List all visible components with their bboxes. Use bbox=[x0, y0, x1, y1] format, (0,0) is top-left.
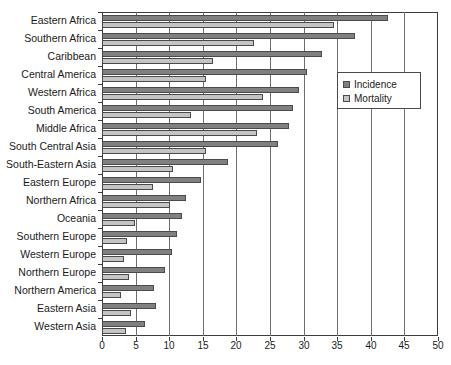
category-label: Central America bbox=[0, 68, 96, 80]
bar-incidence bbox=[102, 159, 228, 165]
bar-mortality bbox=[102, 256, 124, 262]
bar-incidence bbox=[102, 285, 154, 291]
bar-mortality bbox=[102, 184, 153, 190]
y-tick-mark bbox=[98, 318, 102, 319]
x-tick-label: 25 bbox=[255, 340, 285, 352]
bar-incidence bbox=[102, 177, 201, 183]
x-tick-label: 20 bbox=[221, 340, 251, 352]
bar-mortality bbox=[102, 112, 191, 118]
gridline bbox=[337, 12, 338, 336]
y-tick-mark bbox=[98, 192, 102, 193]
y-tick-mark bbox=[98, 30, 102, 31]
legend-swatch-incidence bbox=[343, 81, 350, 88]
gridline bbox=[304, 12, 305, 336]
bar-mortality bbox=[102, 166, 173, 172]
gridline bbox=[270, 12, 271, 336]
bar-incidence bbox=[102, 249, 172, 255]
y-tick-mark bbox=[98, 228, 102, 229]
legend-label-mortality: Mortality bbox=[354, 93, 392, 104]
chart-legend: Incidence Mortality bbox=[337, 72, 421, 109]
bar-incidence bbox=[102, 51, 322, 57]
category-label: Western Asia bbox=[0, 320, 96, 332]
x-tick-label: 5 bbox=[121, 340, 151, 352]
category-label: Western Europe bbox=[0, 248, 96, 260]
bar-incidence bbox=[102, 123, 289, 129]
y-tick-mark bbox=[98, 246, 102, 247]
x-tick-label: 35 bbox=[322, 340, 352, 352]
y-tick-mark bbox=[98, 12, 102, 13]
bar-mortality bbox=[102, 220, 135, 226]
y-tick-mark bbox=[98, 138, 102, 139]
bar-mortality bbox=[102, 130, 257, 136]
bar-incidence bbox=[102, 69, 307, 75]
bar-mortality bbox=[102, 148, 206, 154]
legend-entry-incidence: Incidence bbox=[343, 77, 420, 91]
category-label: Western Africa bbox=[0, 86, 96, 98]
y-tick-mark bbox=[98, 66, 102, 67]
category-label: Southern Africa bbox=[0, 32, 96, 44]
gridline bbox=[371, 12, 372, 336]
category-label: Southern Europe bbox=[0, 230, 96, 242]
bar-mortality bbox=[102, 328, 126, 334]
gridline bbox=[236, 12, 237, 336]
bar-mortality bbox=[102, 58, 213, 64]
x-tick-label: 30 bbox=[289, 340, 319, 352]
bar-incidence bbox=[102, 303, 156, 309]
category-label: Northern Europe bbox=[0, 266, 96, 278]
y-tick-mark bbox=[98, 84, 102, 85]
x-tick-label: 15 bbox=[188, 340, 218, 352]
bar-mortality bbox=[102, 274, 129, 280]
category-label: Eastern Asia bbox=[0, 302, 96, 314]
y-tick-mark bbox=[98, 264, 102, 265]
bar-incidence bbox=[102, 195, 186, 201]
x-tick-label: 40 bbox=[356, 340, 386, 352]
bar-mortality bbox=[102, 292, 121, 298]
bar-mortality bbox=[102, 94, 263, 100]
chart-figure: 05101520253035404550 Eastern AfricaSouth… bbox=[0, 0, 451, 365]
category-label: South America bbox=[0, 104, 96, 116]
bar-incidence bbox=[102, 321, 145, 327]
caption-strip bbox=[6, 356, 436, 364]
category-label: Caribbean bbox=[0, 50, 96, 62]
y-tick-mark bbox=[98, 156, 102, 157]
bar-incidence bbox=[102, 87, 299, 93]
legend-entry-mortality: Mortality bbox=[343, 91, 420, 105]
bar-mortality bbox=[102, 310, 131, 316]
category-label: Northern Africa bbox=[0, 194, 96, 206]
y-tick-mark bbox=[98, 174, 102, 175]
y-tick-mark bbox=[98, 102, 102, 103]
legend-label-incidence: Incidence bbox=[354, 79, 397, 90]
bar-incidence bbox=[102, 213, 182, 219]
bar-incidence bbox=[102, 231, 177, 237]
bar-mortality bbox=[102, 238, 127, 244]
bar-incidence bbox=[102, 15, 388, 21]
bar-incidence bbox=[102, 267, 165, 273]
gridline bbox=[404, 12, 405, 336]
y-tick-mark bbox=[98, 120, 102, 121]
category-label: Eastern Europe bbox=[0, 176, 96, 188]
category-label: Oceania bbox=[0, 212, 96, 224]
bar-mortality bbox=[102, 202, 170, 208]
x-tick-label: 0 bbox=[87, 340, 117, 352]
bar-incidence bbox=[102, 141, 278, 147]
bar-incidence bbox=[102, 105, 293, 111]
category-label: South Central Asia bbox=[0, 140, 96, 152]
x-tick-label: 50 bbox=[423, 340, 451, 352]
x-tick-label: 45 bbox=[389, 340, 419, 352]
y-tick-mark bbox=[98, 210, 102, 211]
legend-swatch-mortality bbox=[343, 95, 350, 102]
bar-incidence bbox=[102, 33, 355, 39]
y-tick-mark bbox=[98, 282, 102, 283]
y-tick-mark bbox=[98, 300, 102, 301]
category-label: Eastern Africa bbox=[0, 14, 96, 26]
y-tick-mark bbox=[98, 48, 102, 49]
bar-mortality bbox=[102, 22, 334, 28]
bar-mortality bbox=[102, 40, 254, 46]
bar-mortality bbox=[102, 76, 206, 82]
x-tick-label: 10 bbox=[154, 340, 184, 352]
category-label: Middle Africa bbox=[0, 122, 96, 134]
category-label: Northern America bbox=[0, 284, 96, 296]
category-label: South-Eastern Asia bbox=[0, 158, 96, 170]
